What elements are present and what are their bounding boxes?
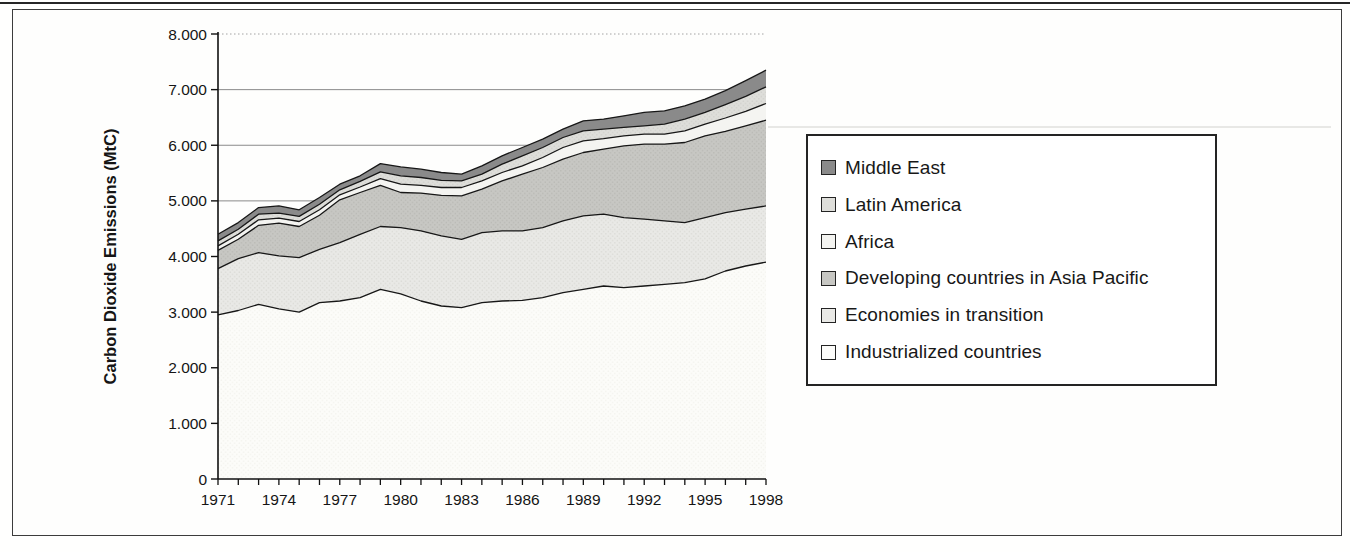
x-tick-label: 1998: [749, 491, 783, 508]
x-tick-label: 1974: [262, 491, 297, 508]
y-axis-title: Carbon Dioxide Emissions (MtC): [101, 129, 119, 385]
x-tick-label: 1989: [566, 491, 600, 508]
x-tick-labels: 1971197419771980198319861989199219951998: [201, 479, 783, 508]
legend-swatch-icon: [821, 345, 836, 360]
y-tick-label: 4.000: [168, 248, 207, 265]
legend-item-label: Latin America: [845, 194, 961, 216]
y-tick-label: 7.000: [168, 81, 207, 98]
legend-item-latin-america: Latin America: [821, 194, 1209, 216]
legend-swatch-icon: [821, 271, 836, 286]
legend-swatch-icon: [821, 197, 836, 212]
legend-swatch-icon: [821, 234, 836, 249]
y-tick-label: 5.000: [168, 192, 207, 209]
legend: Middle EastLatin AmericaAfricaDeveloping…: [806, 134, 1217, 386]
legend-swatch-icon: [821, 308, 836, 323]
y-tick-label: 8.000: [168, 26, 207, 43]
legend-item-label: Developing countries in Asia Pacific: [845, 267, 1149, 289]
y-tick-label: 1.000: [168, 415, 207, 432]
legend-item-economies-in-transition: Economies in transition: [821, 304, 1209, 326]
legend-item-africa: Africa: [821, 231, 1209, 253]
x-tick-label: 1980: [383, 491, 418, 508]
y-tick-labels: 01.0002.0003.0004.0005.0006.0007.0008.00…: [168, 26, 218, 488]
x-tick-label: 1986: [505, 491, 539, 508]
page-top-rule: [0, 2, 1350, 4]
legend-item-industrialized-countries: Industrialized countries: [821, 341, 1209, 363]
y-tick-label: 2.000: [168, 359, 207, 376]
legend-item-developing-countries-in-asia-pacific: Developing countries in Asia Pacific: [821, 267, 1209, 289]
x-tick-label: 1992: [627, 491, 661, 508]
figure-frame: 01.0002.0003.0004.0005.0006.0007.0008.00…: [12, 9, 1342, 536]
legend-item-label: Africa: [845, 231, 894, 253]
legend-item-label: Industrialized countries: [845, 341, 1042, 363]
x-tick-label: 1971: [201, 491, 235, 508]
y-tick-label: 3.000: [168, 304, 207, 321]
x-tick-label: 1995: [688, 491, 722, 508]
legend-item-label: Economies in transition: [845, 304, 1044, 326]
figure-page: 01.0002.0003.0004.0005.0006.0007.0008.00…: [0, 0, 1350, 552]
legend-swatch-icon: [821, 160, 836, 175]
y-tick-label: 6.000: [168, 137, 207, 154]
x-tick-label: 1977: [323, 491, 357, 508]
y-tick-label: 0: [198, 471, 207, 488]
legend-item-middle-east: Middle East: [821, 157, 1209, 179]
legend-item-label: Middle East: [845, 157, 945, 179]
x-tick-label: 1983: [444, 491, 478, 508]
